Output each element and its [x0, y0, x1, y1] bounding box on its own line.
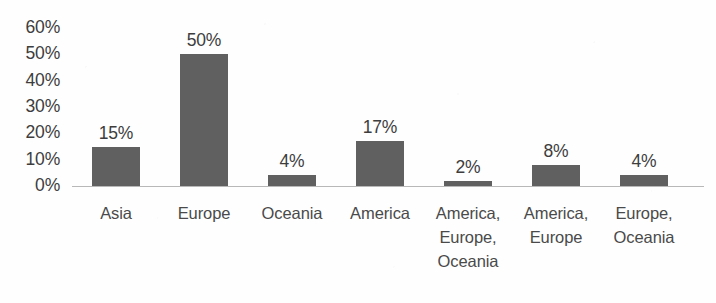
bar-value-label: 17% — [336, 119, 424, 137]
bar-slot — [72, 0, 160, 186]
bar-value-label: 8% — [512, 143, 600, 161]
bar[interactable] — [356, 141, 404, 186]
y-tick-label-4: 20% — [26, 124, 60, 142]
bar[interactable] — [92, 147, 140, 187]
y-tick-label-0: 60% — [26, 19, 60, 37]
y-tick-label-6: 0% — [35, 177, 60, 195]
category-label-line: Europe, — [422, 225, 514, 249]
bar[interactable] — [180, 54, 228, 186]
category-label-line: Asia — [70, 201, 162, 225]
y-tick-label-1: 50% — [26, 45, 60, 63]
category-label: Europe,Oceania — [598, 201, 690, 249]
category-label-line: Europe — [510, 225, 602, 249]
bar[interactable] — [532, 165, 580, 186]
category-label: Oceania — [246, 201, 338, 225]
category-label-line: Europe, — [598, 201, 690, 225]
category-label-line: America, — [422, 201, 514, 225]
category-label-line: Europe — [158, 201, 250, 225]
category-label: America — [334, 201, 426, 225]
y-tick-label-3: 30% — [26, 98, 60, 116]
y-axis: 60% 50% 40% 30% 20% 10% 0% — [0, 0, 68, 200]
bar-chart: 60% 50% 40% 30% 20% 10% 0% 15%50%4%17%2%… — [0, 0, 716, 303]
bar[interactable] — [268, 175, 316, 186]
category-label: America,Europe — [510, 201, 602, 249]
category-label-line: America, — [510, 201, 602, 225]
category-label-line: Oceania — [422, 249, 514, 273]
category-label: Asia — [70, 201, 162, 225]
bar-value-label: 2% — [424, 159, 512, 177]
bar[interactable] — [444, 181, 492, 186]
category-label-line: Oceania — [246, 201, 338, 225]
bar[interactable] — [620, 175, 668, 186]
category-label: Europe — [158, 201, 250, 225]
y-tick-label-5: 10% — [26, 151, 60, 169]
bar-slot — [160, 0, 248, 186]
bar-value-label: 4% — [248, 153, 336, 171]
category-label-line: Oceania — [598, 225, 690, 249]
bar-slot — [336, 0, 424, 186]
category-label: America,Europe,Oceania — [422, 201, 514, 273]
category-label-line: America — [334, 201, 426, 225]
x-axis-line — [72, 186, 704, 187]
bar-value-label: 15% — [72, 125, 160, 143]
y-tick-label-2: 40% — [26, 72, 60, 90]
bar-value-label: 50% — [160, 32, 248, 50]
bar-value-label: 4% — [600, 153, 688, 171]
